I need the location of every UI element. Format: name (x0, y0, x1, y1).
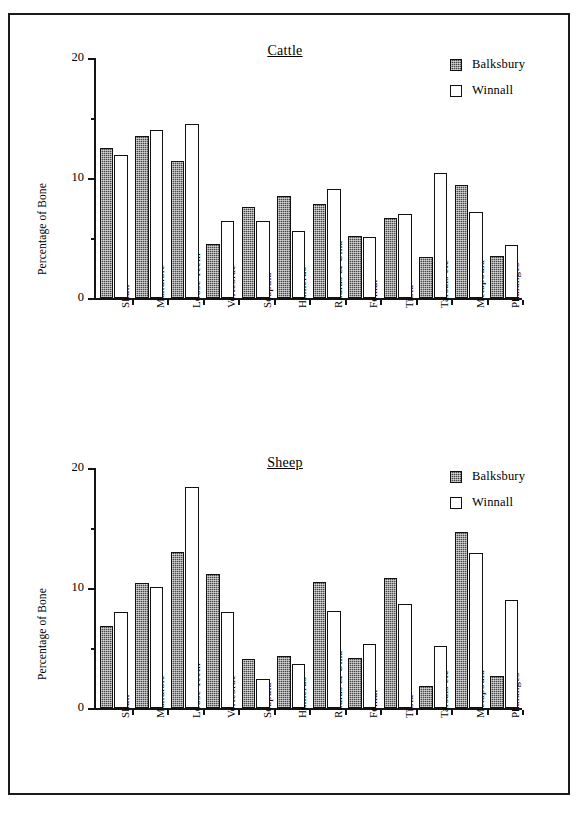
x-tick-sheep-0 (132, 710, 134, 715)
bar-cattle-mandible-winnall (150, 130, 163, 298)
bar-cattle-loose-teeth-balksbury (171, 161, 184, 298)
y-tick-label-10-sheep: 10 (52, 580, 84, 595)
y-tick-label-10-cattle: 10 (52, 170, 84, 185)
bar-cattle-loose-teeth-winnall (185, 124, 198, 298)
x-tick-cattle-11 (522, 300, 524, 305)
y-tick-20-sheep (88, 468, 96, 470)
bar-sheep-tarsals-etc-balksbury (419, 686, 432, 708)
bar-cattle-skull-balksbury (100, 148, 113, 298)
bar-cattle-mandible-balksbury (135, 136, 148, 298)
bar-sheep-metapodia-winnall (469, 553, 482, 708)
bar-sheep-tibia-balksbury (384, 578, 397, 708)
x-tick-cattle-9 (451, 300, 453, 305)
x-axis-sheep: SkullMandibleLoose TeethVertebraeScapula… (96, 710, 522, 798)
y-tick-label-0-cattle: 0 (52, 290, 84, 305)
bar-sheep-humerus-balksbury (277, 656, 290, 708)
page-frame: Cattle Percentage of Bone Balksbury Winn… (8, 13, 570, 795)
y-tick-20-cattle (88, 58, 96, 60)
bar-sheep-skull-balksbury (100, 626, 113, 708)
x-tick-cattle-7 (380, 300, 382, 305)
bar-cattle-tibia-balksbury (384, 218, 397, 298)
chart-sheep: Sheep Percentage of Bone Balksbury Winna… (10, 415, 572, 790)
x-tick-cattle-10 (487, 300, 489, 305)
y-tick-label-20-sheep: 20 (52, 460, 84, 475)
x-tick-sheep-5 (309, 710, 311, 715)
bar-sheep-mandible-balksbury (135, 583, 148, 708)
x-tick-cattle-2 (203, 300, 205, 305)
x-axis-cattle: SkullMandibleLoose TeethVertebraeScapula… (96, 300, 522, 388)
plot-area-cattle (96, 58, 522, 298)
bar-sheep-phalanges-winnall (505, 600, 518, 708)
x-tick-sheep-1 (167, 710, 169, 715)
bar-cattle-phalanges-balksbury (490, 256, 503, 298)
bar-sheep-metapodia-balksbury (455, 532, 468, 708)
x-tick-sheep-8 (416, 710, 418, 715)
bar-sheep-radius-ulna-balksbury (313, 582, 326, 708)
bar-sheep-phalanges-balksbury (490, 676, 503, 708)
bar-cattle-femur-balksbury (348, 236, 361, 298)
x-tick-sheep-10 (487, 710, 489, 715)
x-tick-cattle-4 (274, 300, 276, 305)
y-axis-label-cattle: Percentage of Bone (36, 183, 48, 275)
x-tick-sheep-4 (274, 710, 276, 715)
x-tick-cattle-8 (416, 300, 418, 305)
x-tick-cattle-0 (132, 300, 134, 305)
x-tick-cattle-6 (345, 300, 347, 305)
bar-sheep-vertebrae-balksbury (206, 574, 219, 708)
x-tick-sheep-11 (522, 710, 524, 715)
bar-cattle-humerus-balksbury (277, 196, 290, 298)
x-tick-sheep-3 (238, 710, 240, 715)
bar-sheep-femur-winnall (363, 644, 376, 708)
x-tick-cattle-1 (167, 300, 169, 305)
x-tick-sheep-9 (451, 710, 453, 715)
bar-cattle-femur-winnall (363, 237, 376, 298)
bar-cattle-radius-ulna-balksbury (313, 204, 326, 298)
bar-cattle-vertebrae-winnall (221, 221, 234, 298)
bar-cattle-scapula-balksbury (242, 207, 255, 298)
bar-sheep-skull-winnall (114, 612, 127, 708)
bar-sheep-scapula-balksbury (242, 659, 255, 708)
bar-sheep-loose-teeth-balksbury (171, 552, 184, 708)
y-tick-10-cattle (88, 178, 96, 180)
bar-cattle-tarsals-etc-winnall (434, 173, 447, 298)
x-tick-sheep-6 (345, 710, 347, 715)
bar-cattle-phalanges-winnall (505, 245, 518, 298)
bar-cattle-radius-ulna-winnall (327, 189, 340, 298)
y-tick-label-20-cattle: 20 (52, 50, 84, 65)
bar-sheep-humerus-winnall (292, 664, 305, 708)
x-tick-cattle-5 (309, 300, 311, 305)
plot-area-sheep (96, 468, 522, 708)
bar-sheep-scapula-winnall (256, 679, 269, 708)
y-tick-label-0-sheep: 0 (52, 700, 84, 715)
bar-sheep-mandible-winnall (150, 587, 163, 708)
x-tick-cattle-3 (238, 300, 240, 305)
bar-sheep-loose-teeth-winnall (185, 487, 198, 708)
bar-cattle-skull-winnall (114, 155, 127, 298)
bar-cattle-tarsals-etc-balksbury (419, 257, 432, 298)
bar-cattle-vertebrae-balksbury (206, 244, 219, 298)
bar-cattle-metapodia-balksbury (455, 185, 468, 298)
y-axis-label-sheep: Percentage of Bone (36, 588, 48, 680)
bar-cattle-tibia-winnall (398, 214, 411, 298)
bar-cattle-metapodia-winnall (469, 212, 482, 298)
chart-cattle: Cattle Percentage of Bone Balksbury Winn… (10, 25, 572, 390)
bar-cattle-humerus-winnall (292, 231, 305, 298)
x-tick-sheep-2 (203, 710, 205, 715)
x-tick-sheep-7 (380, 710, 382, 715)
bar-sheep-tarsals-etc-winnall (434, 646, 447, 708)
bar-sheep-radius-ulna-winnall (327, 611, 340, 708)
bar-cattle-scapula-winnall (256, 221, 269, 298)
chart-title-cattle: Cattle (225, 43, 345, 59)
y-tick-10-sheep (88, 588, 96, 590)
bar-sheep-femur-balksbury (348, 658, 361, 708)
bar-sheep-tibia-winnall (398, 604, 411, 708)
bar-sheep-vertebrae-winnall (221, 612, 234, 708)
